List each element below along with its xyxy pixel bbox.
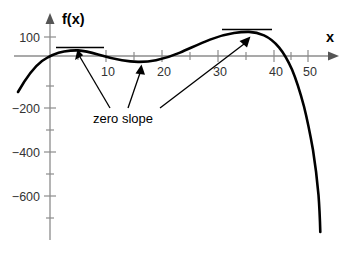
- leader-arrowhead-local-min: [136, 65, 146, 75]
- x-tick-label-20: 20: [157, 65, 171, 79]
- x-tick-label-30: 30: [213, 65, 227, 79]
- zero-slope-annotation-label: zero slope: [93, 111, 153, 126]
- y-tick-label-minus600: −600: [12, 190, 40, 204]
- x-tick-label-50: 50: [303, 65, 317, 79]
- y-axis-arrowhead: [46, 13, 55, 24]
- leader-line-local-min: [128, 73, 140, 108]
- y-axis-title: f(x): [62, 11, 85, 27]
- function-curve: [18, 32, 320, 232]
- figure-container: 100 −200 −400 −600 10 20 30 40 50 f(x) x: [0, 0, 360, 257]
- y-tick-label-100: 100: [19, 31, 40, 45]
- x-axis-arrowhead: [328, 52, 339, 61]
- y-tick-label-minus200: −200: [12, 102, 40, 116]
- curve-group: [18, 32, 320, 232]
- leader-line-global-max: [160, 44, 244, 108]
- x-tick-label-40: 40: [269, 65, 283, 79]
- y-tick-label-minus400: −400: [12, 146, 40, 160]
- function-plot: 100 −200 −400 −600 10 20 30 40 50 f(x) x: [0, 0, 360, 257]
- x-axis-title: x: [326, 29, 334, 45]
- x-tick-label-10: 10: [101, 65, 115, 79]
